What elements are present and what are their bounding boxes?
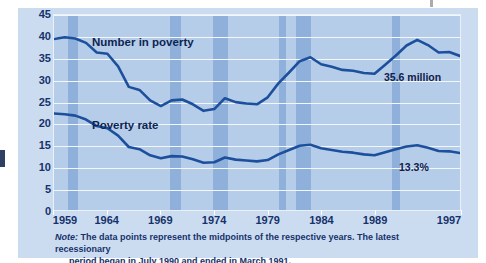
plot-area: Number in poverty Poverty rate 35.6 mill… (53, 14, 461, 211)
y-axis-tick-label: 35 (21, 52, 51, 63)
y-axis-tick-label: 15 (21, 140, 51, 151)
x-axis-tick-label: 1964 (94, 215, 118, 226)
y-axis: 051015202530354045 (18, 14, 51, 211)
x-axis-tick-label: 1984 (309, 215, 333, 226)
x-axis-tick-mark (268, 210, 269, 215)
x-axis-tick-mark (53, 210, 54, 215)
poverty-chart-figure: 051015202530354045 Number in poverty Pov… (0, 0, 486, 263)
annotation-number-in-poverty: Number in poverty (92, 37, 194, 49)
x-axis-tick-label: 1997 (437, 215, 461, 226)
scan-artifact-top (430, 0, 433, 7)
y-axis-tick-label: 25 (21, 96, 51, 107)
x-axis-tick-label: 1969 (148, 215, 172, 226)
x-axis: 19591964196919741979198419891997 (53, 215, 461, 231)
y-axis-tick-label: 30 (21, 74, 51, 85)
x-axis-tick-mark (107, 210, 108, 215)
x-axis-tick-label: 1959 (53, 215, 77, 226)
x-axis-tick-mark (160, 210, 161, 215)
chart-footnote: Note: The data points represent the midp… (55, 232, 455, 263)
x-axis-tick-label: 1989 (363, 215, 387, 226)
x-axis-tick-mark (321, 210, 322, 215)
y-axis-tick-label: 20 (21, 118, 51, 129)
x-axis-tick-label: 1979 (255, 215, 279, 226)
annotation-value-35-6-million: 35.6 million (384, 72, 441, 83)
y-axis-tick-label: 10 (21, 162, 51, 173)
footnote-label: Note: (55, 232, 78, 242)
footnote-line-2: period began in July 1990 and ended in M… (55, 256, 455, 263)
scan-artifact-left (0, 150, 5, 167)
x-axis-tick-mark (461, 210, 462, 215)
y-axis-tick-label: 45 (21, 9, 51, 20)
y-axis-tick-label: 40 (21, 30, 51, 41)
x-axis-tick-label: 1974 (202, 215, 226, 226)
annotation-poverty-rate: Poverty rate (92, 120, 158, 132)
x-axis-tick-mark (375, 210, 376, 215)
y-axis-tick-label: 5 (21, 184, 51, 195)
y-axis-tick-label: 0 (21, 206, 51, 217)
footnote-line-1: The data points represent the midpoints … (55, 232, 399, 254)
x-axis-tick-mark (214, 210, 215, 215)
annotation-value-13-3-percent: 13.3% (399, 162, 429, 173)
